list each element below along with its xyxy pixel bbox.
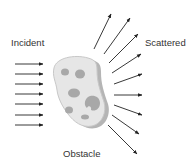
scattered-arrow <box>94 14 111 49</box>
obstacle-label: Obstacle <box>63 149 101 159</box>
scattered-label: Scattered <box>145 38 186 48</box>
scattered-arrow <box>112 115 139 134</box>
scattered-arrow <box>114 74 142 84</box>
diagram-canvas <box>0 0 193 166</box>
scattering-diagram: Incident Scattered Obstacle <box>0 0 193 166</box>
incident-arrows <box>15 64 43 125</box>
scattered-arrow <box>114 105 142 115</box>
scattered-arrow <box>104 18 130 54</box>
scattered-arrow <box>112 54 141 73</box>
incident-label: Incident <box>11 38 44 48</box>
